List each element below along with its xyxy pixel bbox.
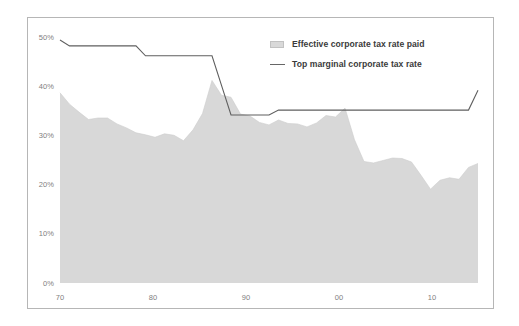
legend-label-top-marginal-rate: Top marginal corporate tax rate: [292, 59, 422, 69]
y-tick-label-0: 0%: [28, 279, 54, 288]
y-tick-label-50: 50%: [28, 33, 54, 42]
legend-label-effective-rate: Effective corporate tax rate paid: [292, 39, 425, 49]
y-tick-label-40: 40%: [28, 82, 54, 91]
chart-legend: Effective corporate tax rate paid Top ma…: [262, 34, 482, 74]
x-tick-label-00: 00: [326, 293, 352, 302]
x-tick-label-70: 70: [47, 293, 73, 302]
legend-swatch-icon: [262, 41, 292, 48]
legend-item-top-marginal-rate: Top marginal corporate tax rate: [262, 54, 482, 74]
y-tick-label-20: 20%: [28, 180, 54, 189]
x-tick-label-80: 80: [140, 293, 166, 302]
x-tick-label-10: 10: [419, 293, 445, 302]
legend-item-effective-rate: Effective corporate tax rate paid: [262, 34, 482, 54]
area-series-effective-rate: [60, 80, 478, 283]
y-tick-label-30: 30%: [28, 131, 54, 140]
legend-line-icon: [262, 64, 292, 65]
x-tick-label-90: 90: [233, 293, 259, 302]
chart-figure: 50% 40% 30% 20% 10% 0% 70 80 90 00 10 Ef…: [0, 0, 519, 326]
y-tick-label-10: 10%: [28, 229, 54, 238]
